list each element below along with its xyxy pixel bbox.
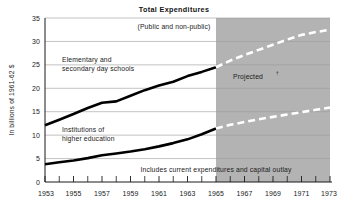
elementary-label-line1: Elementary and	[62, 56, 112, 64]
y-tick-label: 5	[36, 155, 40, 162]
x-tick-label: 1953	[38, 190, 54, 197]
x-tick-label: 1957	[94, 190, 110, 197]
y-tick-label: 0	[36, 179, 40, 186]
x-tick-label: 1965	[208, 190, 224, 197]
y-tick-label: 10	[32, 132, 40, 139]
x-tick-label: 1959	[123, 190, 139, 197]
chart-subtitle: (Public and non-public)	[138, 23, 211, 31]
x-tick-label: 1955	[66, 190, 82, 197]
chart-title: Total Expenditures	[139, 5, 209, 14]
x-tick-label: 1969	[265, 190, 281, 197]
projected-band	[216, 18, 330, 182]
footnote-text: Includes current expenditures and capita…	[140, 166, 292, 174]
x-tick-label: 1967	[237, 190, 253, 197]
x-tick-label: 1963	[180, 190, 196, 197]
y-tick-label: 20	[32, 85, 40, 92]
expenditures-line-chart: 35 30 25 20 15 10 5 0 1953 1955 1957 195…	[0, 0, 348, 211]
y-tick-label: 15	[32, 108, 40, 115]
projected-label-text: Projected	[233, 73, 263, 81]
y-tick-label: 35	[32, 15, 40, 22]
elementary-label-line2: secondary day schools	[62, 65, 135, 73]
y-tick-label: 30	[32, 38, 40, 45]
chart-container: 35 30 25 20 15 10 5 0 1953 1955 1957 195…	[0, 0, 348, 211]
projected-label-superscript: †	[276, 71, 279, 76]
higher-ed-label-line1: Institutions of	[62, 126, 104, 133]
x-tick-label: 1961	[151, 190, 167, 197]
higher-ed-label-line2: higher education	[62, 135, 115, 143]
x-tick-label: 1971	[294, 190, 310, 197]
y-axis-label: In billions of 1961-62 $	[8, 64, 15, 135]
x-tick-label: 1973	[321, 190, 337, 197]
y-tick-label: 25	[32, 61, 40, 68]
